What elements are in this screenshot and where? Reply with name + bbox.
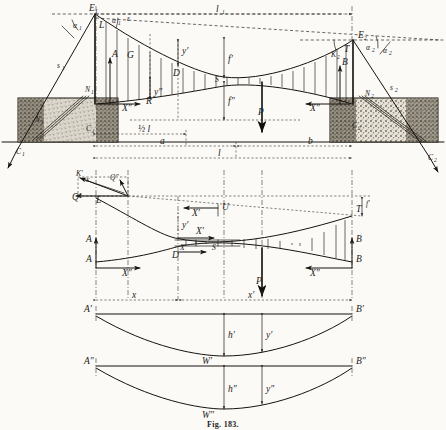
label-dim-x: x <box>131 290 137 300</box>
right-anchorage-block <box>330 96 438 142</box>
label-dim-a: a <box>160 136 165 146</box>
label-node-S: S <box>215 75 219 84</box>
label-tower-right-sub: 2 <box>364 35 367 41</box>
label-y-double-top: y″ <box>153 87 163 97</box>
label-X-prime-at-U: X′ <box>191 208 201 218</box>
label-influence1-curve: W′ <box>202 356 213 366</box>
figure-drawing: E 1 E 2 α 1 α 1 ε α 2 α 2 s 1 s 2 L T A … <box>0 0 446 430</box>
label-node-S-mid: S <box>212 243 216 252</box>
label-anchor-left-inner-sub: 1 <box>91 89 94 95</box>
label-node-U-mid: U <box>222 202 230 212</box>
label-reaction-B: B <box>342 57 348 67</box>
label-anchor-right-force-sub: 2 <box>371 93 374 99</box>
label-influence1-right: B′ <box>356 304 365 314</box>
label-anchor-right-force: N <box>364 89 371 98</box>
label-angle-right-outer-sub: 2 <box>372 47 375 53</box>
label-tower-left: E <box>88 3 95 13</box>
label-anchor-left-force: N <box>34 115 41 124</box>
label-anchor-left-reaction-sub: 1 <box>22 151 25 157</box>
label-influence2-right: B″ <box>356 356 367 366</box>
label-saddle-right: T <box>344 44 350 54</box>
label-K-prime-sub: K <box>85 177 90 183</box>
label-influence2-y: y″ <box>265 384 275 394</box>
label-span-l1-sub: 1 <box>222 9 225 15</box>
label-node-G: G <box>127 50 134 60</box>
label-pier-B-mid: B <box>356 254 362 264</box>
label-dip-f-double: f″ <box>228 96 236 106</box>
label-Q-double: Q″ <box>110 173 119 182</box>
label-A-arrow-mid: A <box>85 234 92 244</box>
label-node-K-right-sub: 2 <box>337 54 340 60</box>
label-saddle-T-mid: T <box>356 204 362 214</box>
label-Q-prime: Q′ <box>72 192 82 202</box>
label-K-prime: K′ <box>75 169 83 178</box>
label-thrust-left: X″ <box>121 103 133 113</box>
label-y-prime-mid: y′ <box>181 220 189 230</box>
label-load-P-top: P <box>257 107 264 117</box>
label-backstay-right-sub: 2 <box>395 87 398 93</box>
label-dim-x-prime: x′ <box>247 290 255 300</box>
label-anchor-left-force-sub: 1 <box>41 119 44 125</box>
label-anchor-left-ground-sub: 1 <box>92 128 95 134</box>
left-anchorage-block <box>18 96 118 142</box>
label-influence2-h: h″ <box>228 384 238 394</box>
label-angle-left-eps: ε <box>127 14 130 23</box>
label-influence1-left: A′ <box>83 304 93 314</box>
label-X-double-left-mid: X″ <box>121 268 133 278</box>
label-influence2-curve: W″ <box>202 410 215 420</box>
label-load-P-mid: P <box>255 276 262 286</box>
label-anchor-right-reaction-sub: 2 <box>434 157 437 163</box>
label-tower-right: E <box>357 30 364 40</box>
label-dip-f-prime-mid: f′ <box>366 199 370 208</box>
label-dim-b: b <box>308 136 313 146</box>
label-thrust-right: X″ <box>309 103 321 113</box>
label-B-arrow-mid: B <box>356 234 362 244</box>
label-node-K-right: K <box>330 50 337 59</box>
label-influence1-y: y′ <box>265 330 273 340</box>
label-pier-A-mid: A <box>85 254 92 264</box>
label-node-D-mid: D <box>171 250 179 260</box>
label-backstay-right: s <box>390 83 393 92</box>
label-reaction-A: A <box>111 49 118 59</box>
label-X-double-right-mid: X″ <box>309 268 321 278</box>
label-backstay-left-sub: 1 <box>62 65 65 71</box>
figure-caption: Fig. 183. <box>207 420 239 429</box>
label-saddle-left: L <box>98 20 104 30</box>
label-tower-left-sub: 1 <box>95 8 98 14</box>
label-anchor-left-inner: N <box>84 85 91 94</box>
label-angle-left-outer-sub: 1 <box>79 25 82 31</box>
label-node-D: D <box>172 68 180 78</box>
label-y-prime-top: y′ <box>181 46 189 56</box>
label-span-l1: l <box>216 4 219 14</box>
figure-page: E 1 E 2 α 1 α 1 ε α 2 α 2 s 1 s 2 L T A … <box>0 0 446 430</box>
label-influence1-h: h′ <box>228 330 236 340</box>
label-backstay-left: s <box>57 61 60 70</box>
label-node-R: R <box>145 96 152 106</box>
label-X-prime-lower: X′ <box>179 243 187 252</box>
label-X-prime-at-D: X′ <box>195 226 205 236</box>
label-influence2-left: A″ <box>83 356 95 366</box>
label-anchor-right-ground-sub: 2 <box>358 125 361 131</box>
label-dim-half-l: ½ l <box>138 124 151 134</box>
label-angle-left-inner-sub: 1 <box>118 20 121 26</box>
label-dim-l: l <box>218 148 221 158</box>
label-angle-right-inner-sub: 2 <box>389 50 392 56</box>
